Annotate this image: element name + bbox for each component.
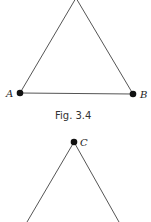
segment-b-apex — [76, 0, 133, 94]
label-b: B — [139, 89, 147, 100]
segment-a-apex — [20, 0, 76, 93]
segment-ab — [20, 93, 133, 94]
label-c: C — [80, 137, 88, 148]
label-a: A — [5, 88, 13, 99]
point-a — [17, 90, 24, 97]
ray-c-right — [74, 142, 119, 222]
triangle-abc-top: A B — [5, 0, 147, 100]
point-c — [71, 139, 78, 146]
point-b — [130, 91, 137, 98]
geometry-figure: A B Fig. 3.4 C — [0, 0, 151, 222]
angle-at-c: C — [27, 137, 119, 222]
ray-c-left — [27, 142, 74, 222]
figure-caption: Fig. 3.4 — [55, 110, 91, 121]
